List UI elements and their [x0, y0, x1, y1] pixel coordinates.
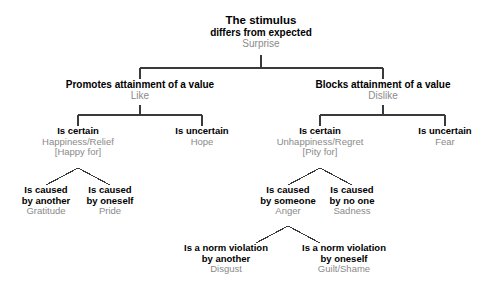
edge-certainlike-to-oneself	[78, 168, 110, 185]
node-promotes-condition: Promotes attainment of a value	[66, 79, 214, 90]
node-caused-by-another-emotion: Gratitude	[22, 206, 71, 217]
node-uncertain-dislike-emotion: Fear	[418, 137, 471, 148]
node-caused-by-no-one-emotion: Sadness	[330, 206, 375, 217]
node-norm-violation-by-another: Is a norm violation by another Disgust	[184, 243, 268, 275]
node-root-emotion: Surprise	[210, 38, 312, 49]
node-promotes-emotion: Like	[66, 90, 214, 101]
node-blocks-condition: Blocks attainment of a value	[315, 79, 450, 90]
node-caused-by-oneself: Is caused by oneself Pride	[87, 185, 134, 217]
edge-certaindislike-to-noone	[320, 168, 352, 185]
node-root-condition-line1: The stimulus	[210, 14, 312, 27]
node-certain-like: Is certain Happiness/Relief [Happy for]	[42, 126, 114, 158]
edge-anger-to-disgust	[256, 226, 288, 243]
node-caused-by-oneself-emotion: Pride	[87, 206, 134, 217]
edge-certaindislike-to-someone	[288, 168, 320, 185]
node-blocks-attainment: Blocks attainment of a value Dislike	[315, 79, 450, 101]
node-certain-like-bracket: [Happy for]	[42, 147, 114, 158]
node-uncertain-like: Is uncertain Hope	[175, 126, 228, 147]
edge-certainlike-to-another	[46, 168, 78, 185]
node-caused-by-someone: Is caused by someone Anger	[260, 185, 315, 217]
node-norm-violation-by-oneself: Is a norm violation by oneself Guilt/Sha…	[302, 243, 386, 275]
node-uncertain-like-emotion: Hope	[175, 137, 228, 148]
node-certain-dislike-bracket: [Pity for]	[277, 147, 364, 158]
edge-anger-to-guilt	[288, 226, 320, 243]
node-norm-violation-by-another-emotion: Disgust	[184, 264, 268, 275]
node-blocks-emotion: Dislike	[315, 90, 450, 101]
node-promotes-attainment: Promotes attainment of a value Like	[66, 79, 214, 101]
node-norm-violation-by-oneself-emotion: Guilt/Shame	[302, 264, 386, 275]
emotion-decision-tree-diagram: The stimulus differs from expected Surpr…	[0, 0, 489, 290]
node-root-condition-line2: differs from expected	[210, 27, 312, 38]
node-caused-by-no-one: Is caused by no one Sadness	[330, 185, 375, 217]
node-root: The stimulus differs from expected Surpr…	[210, 14, 312, 49]
node-uncertain-dislike: Is uncertain Fear	[418, 126, 471, 147]
node-caused-by-another: Is caused by another Gratitude	[22, 185, 71, 217]
node-certain-dislike: Is certain Unhappiness/Regret [Pity for]	[277, 126, 364, 158]
node-caused-by-someone-emotion: Anger	[260, 206, 315, 217]
